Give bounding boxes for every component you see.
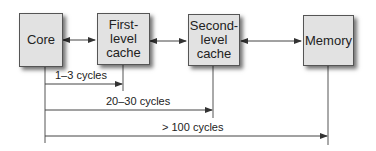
latency-label-l2: 20–30 cycles xyxy=(106,95,170,107)
node-second-level-cache: Second- level cache xyxy=(188,14,240,66)
node-memory-label: Memory xyxy=(305,34,352,48)
node-core: Core xyxy=(19,13,63,67)
node-memory: Memory xyxy=(303,15,354,66)
latency-label-l1: 1–3 cycles xyxy=(55,69,107,81)
node-l2-label: Second- level cache xyxy=(190,19,238,61)
latency-label-memory: > 100 cycles xyxy=(162,121,223,133)
node-l1-label: First- level cache xyxy=(106,18,141,60)
node-first-level-cache: First- level cache xyxy=(97,13,150,65)
node-core-label: Core xyxy=(27,33,55,47)
